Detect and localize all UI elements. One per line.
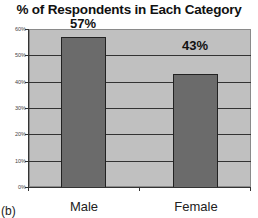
bar-value-label-male: 57% [53, 16, 113, 31]
x-tick-mark [28, 187, 29, 191]
y-tick-label: 40% [4, 79, 26, 85]
y-tick-mark [25, 82, 29, 83]
bar-value-label-female: 43% [165, 38, 225, 53]
y-tick-mark [25, 55, 29, 56]
y-tick-mark [25, 108, 29, 109]
y-tick-mark [25, 161, 29, 162]
y-tick-label: 60% [4, 26, 26, 32]
y-tick-mark [25, 29, 29, 30]
y-tick-label: 50% [4, 52, 26, 58]
x-tick-mark [139, 187, 140, 191]
panel-label: (b) [1, 204, 16, 218]
x-category-label-male: Male [44, 199, 124, 214]
y-tick-mark [25, 134, 29, 135]
chart-title: % of Respondents in Each Category [0, 2, 258, 17]
y-tick-label: 30% [4, 105, 26, 111]
y-tick-label: 20% [4, 131, 26, 137]
bar-male [61, 37, 106, 188]
bar-female [173, 74, 218, 188]
x-category-label-female: Female [156, 199, 236, 214]
x-tick-mark [250, 187, 251, 191]
y-tick-label: 10% [4, 158, 26, 164]
y-tick-label: 0% [4, 184, 26, 190]
